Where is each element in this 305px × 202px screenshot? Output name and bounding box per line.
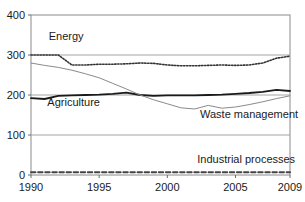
x-tick-label: 1995: [87, 181, 111, 193]
x-tick-label: 2000: [155, 181, 179, 193]
series-label-industrial-processes: Industrial processes: [197, 153, 295, 165]
series-label-waste-management: Waste management: [200, 108, 298, 120]
x-tick-label: 1990: [19, 181, 43, 193]
series-annotation-labels: EnergyAgricultureWaste managementIndustr…: [47, 30, 298, 165]
series-label-energy: Energy: [49, 30, 84, 42]
x-tick-label: 2009: [278, 181, 302, 193]
y-axis-tick-labels: 0100200300400: [7, 9, 25, 181]
series-label-agriculture: Agriculture: [47, 96, 100, 108]
x-axis-tick-labels: 19901995200020052009: [19, 181, 302, 193]
series-line: [31, 55, 290, 66]
x-tick-label: 2005: [223, 181, 247, 193]
y-tick-label: 100: [7, 129, 25, 141]
y-tick-label: 400: [7, 9, 25, 21]
line-chart: 0100200300400 19901995200020052009 Energ…: [0, 0, 305, 202]
chart-container: 0100200300400 19901995200020052009 Energ…: [0, 0, 305, 202]
y-tick-label: 300: [7, 49, 25, 61]
y-tick-label: 200: [7, 89, 25, 101]
y-tick-label: 0: [19, 169, 25, 181]
